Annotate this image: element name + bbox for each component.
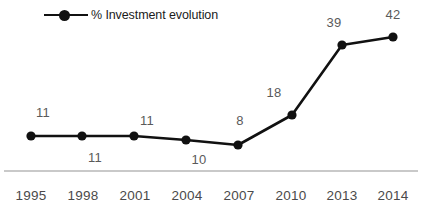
data-point-marker[interactable] — [388, 32, 397, 41]
data-point-marker[interactable] — [181, 135, 190, 144]
data-point-value-label: 8 — [236, 113, 243, 128]
legend-marker-icon — [44, 8, 88, 22]
data-point-value-label: 11 — [88, 150, 102, 165]
data-point-marker[interactable] — [287, 110, 296, 119]
x-axis-tick-label: 2010 — [276, 188, 307, 203]
data-point-value-label: 11 — [140, 113, 154, 128]
x-axis-tick-label: 1995 — [16, 188, 47, 203]
x-axis-tick-label: 2001 — [120, 188, 151, 203]
x-axis-tick-label: 2013 — [327, 188, 358, 203]
legend-dot-icon — [59, 10, 70, 21]
x-axis-tick-label: 2014 — [378, 188, 409, 203]
data-series-line — [31, 37, 393, 145]
x-axis-tick-label: 2004 — [172, 188, 203, 203]
data-point-value-label: 11 — [36, 105, 50, 120]
data-point-markers — [26, 32, 397, 149]
legend-entry-label: % Investment evolution — [91, 8, 218, 22]
chart-legend: % Investment evolution — [44, 5, 218, 25]
data-point-marker[interactable] — [26, 131, 35, 140]
chart-plot-area — [0, 0, 422, 209]
data-point-marker[interactable] — [233, 140, 242, 149]
data-point-value-label: 42 — [386, 7, 401, 22]
line-chart: % Investment evolution 111111108183942 1… — [0, 0, 422, 209]
data-point-marker[interactable] — [337, 40, 346, 49]
data-point-marker[interactable] — [77, 131, 86, 140]
x-axis-tick-label: 2007 — [224, 188, 255, 203]
data-point-marker[interactable] — [129, 131, 138, 140]
data-point-value-label: 18 — [267, 85, 282, 100]
x-axis-tick-label: 1998 — [68, 188, 99, 203]
data-point-value-label: 10 — [192, 152, 207, 167]
series-polyline — [31, 37, 393, 145]
data-point-value-label: 39 — [327, 15, 342, 30]
